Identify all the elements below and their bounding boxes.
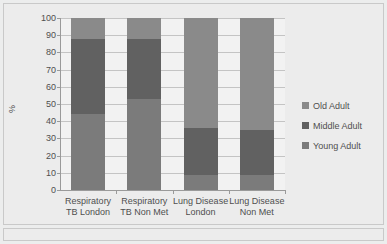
- y-axis-tick-label: 100: [30, 14, 56, 23]
- bar-segment: [71, 39, 105, 115]
- bar-stack: [240, 18, 274, 190]
- bar-segment: [127, 18, 161, 39]
- x-axis-tickmark: [173, 190, 174, 194]
- y-axis-line: [60, 18, 61, 191]
- legend-item[interactable]: Old Adult: [302, 100, 362, 111]
- bar-segment: [240, 175, 274, 190]
- y-axis-tickmark: [57, 190, 60, 191]
- bar-segment: [184, 18, 218, 128]
- bar-segment: [240, 18, 274, 130]
- y-axis-tickmark: [57, 70, 60, 71]
- x-axis-tick-label: Lung DiseaseNon Met: [220, 196, 294, 218]
- bar-stack: [71, 18, 105, 190]
- plot-area: [60, 18, 285, 190]
- y-axis-tick-label: 80: [30, 48, 56, 57]
- legend-item-label: Young Adult: [313, 141, 361, 151]
- bar-segment: [71, 114, 105, 190]
- y-axis-tickmark: [57, 173, 60, 174]
- legend-item[interactable]: Young Adult: [302, 140, 362, 151]
- chart-legend: Old AdultMiddle AdultYoung Adult: [302, 100, 362, 160]
- legend-swatch-icon: [302, 102, 309, 109]
- y-axis-tickmark: [57, 35, 60, 36]
- y-axis-tick-label: 40: [30, 117, 56, 126]
- y-axis-tick-label: 10: [30, 169, 56, 178]
- x-axis-tickmark: [285, 190, 286, 194]
- y-axis-tickmark: [57, 104, 60, 105]
- legend-swatch-icon: [302, 122, 309, 129]
- y-axis-tick-label: 0: [30, 186, 56, 195]
- bar-segment: [240, 130, 274, 175]
- y-axis-tick-label: 50: [30, 100, 56, 109]
- x-axis-tickmark: [116, 190, 117, 194]
- y-axis-tick-label: 70: [30, 66, 56, 75]
- legend-item-label: Middle Adult: [313, 121, 362, 131]
- y-axis-tickmark: [57, 121, 60, 122]
- legend-swatch-icon: [302, 142, 309, 149]
- y-axis-tickmark: [57, 156, 60, 157]
- legend-item[interactable]: Middle Adult: [302, 120, 362, 131]
- bar-stack: [184, 18, 218, 190]
- legend-item-label: Old Adult: [313, 101, 350, 111]
- y-axis-tickmark: [57, 138, 60, 139]
- y-axis-tick-label: 30: [30, 134, 56, 143]
- bar-segment: [184, 175, 218, 190]
- bar-segment: [71, 18, 105, 39]
- y-axis-tick-label: 60: [30, 83, 56, 92]
- bar-stack: [127, 18, 161, 190]
- y-axis-tick-label: 20: [30, 152, 56, 161]
- chart-container: % 1009080706050403020100 RespiratoryTB L…: [0, 0, 387, 244]
- y-axis-title: %: [7, 105, 17, 113]
- x-axis-tickmark: [229, 190, 230, 194]
- y-axis-tick-label: 90: [30, 31, 56, 40]
- footer-strip: [3, 228, 384, 241]
- x-axis-tick-label-line: Lung Disease: [220, 196, 294, 207]
- bar-segment: [127, 39, 161, 99]
- bar-segment: [184, 128, 218, 174]
- y-axis-tickmark: [57, 87, 60, 88]
- x-axis-tick-label-line: Non Met: [220, 207, 294, 218]
- y-axis-tickmark: [57, 52, 60, 53]
- y-axis-tickmark: [57, 18, 60, 19]
- bar-segment: [127, 99, 161, 190]
